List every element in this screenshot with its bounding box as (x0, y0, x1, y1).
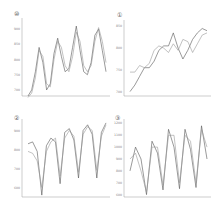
y-tick-label: 700 (14, 88, 20, 92)
y-tick-label: 900 (14, 27, 20, 31)
y-tick-label: 800 (116, 169, 122, 173)
y-tick-label: 850 (14, 42, 20, 46)
y-tick-label: 900 (116, 157, 122, 161)
y-tick-label: 800 (14, 58, 20, 62)
chart-svg: 600700800900100011001200 (111, 107, 222, 214)
y-tick-label: 600 (14, 186, 20, 190)
y-tick-label: 800 (116, 46, 122, 50)
y-tick-label: 850 (116, 24, 122, 28)
chart-svg: 600700800900 (0, 107, 111, 214)
y-tick-label: 700 (116, 90, 122, 94)
y-tick-label: 800 (14, 148, 20, 152)
chart-panel-1: ① 700750800850 (111, 0, 222, 107)
axis (124, 20, 211, 96)
chart-svg: 700750800850 (111, 0, 222, 107)
chart-panel-2: ② 600700800900 (0, 107, 111, 214)
chart-svg: 700750800850900 (0, 0, 111, 107)
chart-panel-3: ③ 600700800900100011001200 (111, 107, 222, 214)
y-tick-label: 700 (14, 167, 20, 171)
y-tick-label: 1000 (114, 145, 122, 149)
y-tick-label: 700 (116, 181, 122, 185)
y-tick-label: 750 (14, 73, 20, 77)
y-tick-label: 750 (116, 68, 122, 72)
y-tick-label: 900 (14, 129, 20, 133)
series-line (130, 33, 207, 72)
y-tick-label: 1200 (114, 121, 122, 125)
y-tick-label: 600 (116, 193, 122, 197)
series-line (130, 29, 207, 92)
series-line (28, 26, 106, 96)
y-tick-label: 1100 (114, 133, 122, 137)
axis (22, 18, 110, 96)
chart-panel-10: ⑩ 700750800850900 (0, 0, 111, 107)
